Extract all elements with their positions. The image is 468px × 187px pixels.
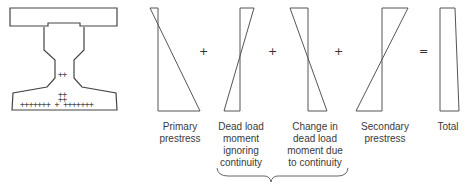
label-dead-load-moment: Dead load moment ignoring continuity	[206, 121, 276, 169]
label-change-dead-load-moment: Change in dead load moment due to contin…	[277, 121, 353, 169]
equals-operator: =	[419, 45, 428, 58]
diagram-dead-load-moment	[224, 8, 254, 111]
label-line: to continuity	[277, 157, 353, 169]
plus-operator-2: +	[268, 45, 277, 58]
grouping-brace	[217, 168, 348, 182]
diagram-primary-prestress	[150, 8, 200, 111]
diagram-secondary-prestress	[356, 8, 408, 111]
label-line: Dead load	[206, 121, 276, 133]
label-secondary-prestress: Secondary prestress	[350, 121, 420, 145]
label-line: Primary	[148, 121, 212, 133]
label-line: Change in	[277, 121, 353, 133]
label-line: prestress	[350, 133, 420, 145]
label-line: Total	[430, 121, 466, 133]
web-strands: ++	[58, 71, 67, 79]
label-line: dead load	[277, 133, 353, 145]
plus-operator-3: +	[334, 45, 343, 58]
label-primary-prestress: Primary prestress	[148, 121, 212, 145]
label-line: continuity	[206, 157, 276, 169]
bottom-strand-row: +++++++ + +++++++	[20, 101, 93, 109]
label-line: prestress	[148, 133, 212, 145]
label-line: Secondary	[350, 121, 420, 133]
label-line: ignoring	[206, 145, 276, 157]
diagram-total	[440, 8, 459, 111]
diagram-change-dead-load-moment	[290, 8, 327, 111]
label-line: moment	[206, 133, 276, 145]
label-total: Total	[430, 121, 466, 133]
plus-operator-1: +	[199, 45, 208, 58]
label-line: moment due	[277, 145, 353, 157]
